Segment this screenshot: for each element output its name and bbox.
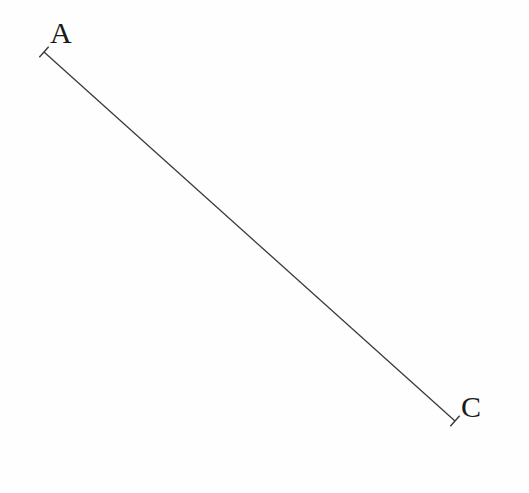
- point-label-a: A: [50, 18, 72, 48]
- point-label-c: C: [461, 392, 481, 422]
- line-segment-drawing: [0, 0, 529, 493]
- background-rect: [0, 0, 529, 493]
- figure-canvas: A C: [0, 0, 529, 493]
